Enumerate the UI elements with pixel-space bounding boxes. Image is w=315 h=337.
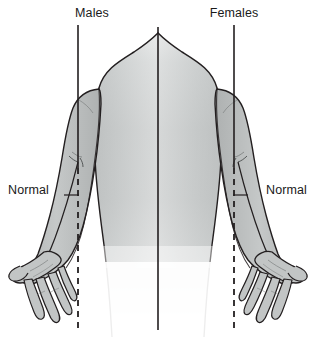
normal-label-right: Normal xyxy=(266,183,307,197)
torso-outline-fade xyxy=(86,262,232,337)
males-label: Males xyxy=(75,6,109,20)
carrying-angle-figure: Males Females Normal Normal xyxy=(0,0,315,337)
torso-group xyxy=(86,28,232,337)
anatomical-diagram-svg: Males Females Normal Normal xyxy=(0,0,315,337)
torso-outline-fade2 xyxy=(86,246,232,268)
normal-label-left: Normal xyxy=(8,183,49,197)
females-label: Females xyxy=(210,6,259,20)
